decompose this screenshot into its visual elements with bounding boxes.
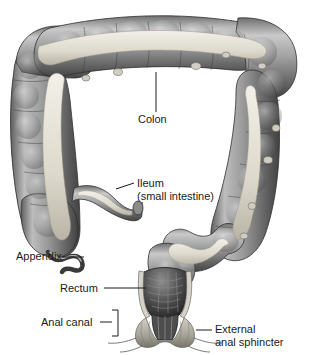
label-ileum-line1: Ileum bbox=[137, 177, 214, 190]
leader-ileum bbox=[116, 183, 134, 189]
label-rectum: Rectum bbox=[60, 282, 98, 295]
rectum-group bbox=[108, 268, 222, 353]
label-sphincter-line1: External bbox=[215, 323, 284, 336]
label-colon: Colon bbox=[138, 113, 167, 126]
label-external-anal-sphincter: External anal sphincter bbox=[215, 323, 284, 348]
label-anal-canal: Anal canal bbox=[41, 316, 92, 329]
label-ileum-line2: (small intestine) bbox=[137, 190, 214, 203]
label-sphincter-line2: anal sphincter bbox=[215, 336, 284, 349]
label-appendix: Appendix bbox=[16, 250, 62, 263]
anatomy-figure: Colon Ileum (small intestine) Appendix R… bbox=[0, 0, 318, 355]
ileum-cut-end bbox=[133, 201, 143, 215]
rectum bbox=[143, 268, 187, 321]
label-ileum: Ileum (small intestine) bbox=[137, 177, 214, 202]
anal-canal-bracket bbox=[112, 310, 118, 336]
